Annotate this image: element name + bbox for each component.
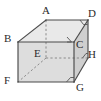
vertex-label-E: E — [34, 48, 41, 59]
vertex-label-G: G — [76, 82, 84, 93]
vertex-label-B: B — [4, 33, 11, 44]
vertex-label-F: F — [4, 75, 10, 86]
prism-drawing — [0, 0, 101, 101]
geometry-figure: A B C D E F G H — [0, 0, 101, 101]
vertex-label-D: D — [88, 8, 96, 19]
vertex-label-A: A — [42, 5, 50, 16]
vertex-label-C: C — [76, 39, 83, 50]
vertex-label-H: H — [88, 49, 96, 60]
